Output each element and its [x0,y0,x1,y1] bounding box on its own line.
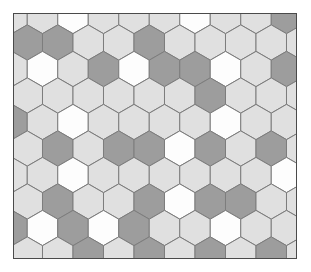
figure-frame [13,13,297,259]
hexagon-tiling-figure [0,0,311,272]
hexagon-grid [14,14,297,259]
